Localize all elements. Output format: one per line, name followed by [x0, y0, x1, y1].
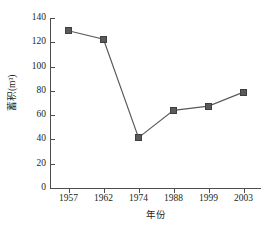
- y-tick-mark: [51, 67, 55, 68]
- x-tick-label: 1974: [119, 194, 159, 204]
- data-point-marker: [135, 134, 142, 141]
- y-tick-mark: [51, 139, 55, 140]
- y-tick-label: 20: [16, 159, 46, 169]
- series-polyline: [69, 31, 244, 138]
- y-tick-mark: [51, 91, 55, 92]
- y-tick-label: 140: [16, 13, 46, 23]
- chart-figure: 020406080100120140 蓄积(m³) 年份 19571962197…: [0, 0, 280, 236]
- y-tick-mark: [51, 164, 55, 165]
- x-tick-mark: [174, 189, 175, 193]
- x-tick-mark: [139, 189, 140, 193]
- x-tick-label: 1999: [189, 194, 229, 204]
- y-tick-mark: [51, 42, 55, 43]
- x-tick-label: 2003: [224, 194, 264, 204]
- y-tick-label: 120: [16, 38, 46, 48]
- y-axis-title: 蓄积(m³): [8, 56, 18, 130]
- y-tick-mark: [51, 18, 55, 19]
- data-point-marker: [240, 89, 247, 96]
- y-tick-label: 80: [16, 86, 46, 96]
- x-axis-line: [50, 188, 261, 189]
- x-axis-title: 年份: [50, 211, 261, 221]
- data-point-marker: [100, 36, 107, 43]
- y-tick-label: 60: [16, 110, 46, 120]
- data-point-marker: [65, 27, 72, 34]
- y-tick-label: 40: [16, 135, 46, 145]
- y-tick-label: 0: [16, 183, 46, 193]
- x-tick-label: 1962: [84, 194, 124, 204]
- data-point-marker: [205, 103, 212, 110]
- y-tick-mark: [51, 115, 55, 116]
- x-tick-label: 1957: [49, 194, 89, 204]
- y-tick-label: 100: [16, 62, 46, 72]
- x-tick-mark: [209, 189, 210, 193]
- x-tick-mark: [69, 189, 70, 193]
- data-point-marker: [170, 107, 177, 114]
- x-tick-mark: [104, 189, 105, 193]
- x-tick-label: 1988: [154, 194, 194, 204]
- x-tick-mark: [244, 189, 245, 193]
